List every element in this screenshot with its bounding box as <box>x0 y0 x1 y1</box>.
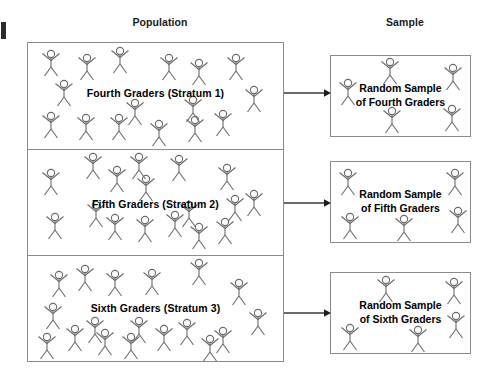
sample-label-line-2: of Fourth Graders <box>331 96 470 110</box>
stick-figure <box>75 113 97 141</box>
stratum-row-fifth-graders: Fifth Graders (Stratum 2) <box>28 150 283 256</box>
population-column-header: Population <box>105 16 215 28</box>
diagram-canvas: Population Sample Fourth Graders (Stratu… <box>0 0 495 382</box>
sample-label-sixth-graders: Random Sample of Sixth Graders <box>331 299 470 326</box>
sample-label-line-1: Random Sample <box>331 299 470 313</box>
stick-figure-icon <box>134 215 156 243</box>
stick-figure <box>109 46 131 74</box>
stratum-row-fourth-graders: Fourth Graders (Stratum 1) <box>28 43 283 150</box>
stick-figure-icon <box>188 222 210 250</box>
stick-figure-icon <box>104 213 126 241</box>
stick-figure-icon <box>214 217 236 245</box>
stick-figure <box>176 318 198 346</box>
stick-figure-icon <box>168 154 190 182</box>
stick-figure <box>36 332 58 360</box>
stick-figure-icon <box>153 324 175 352</box>
population-box: Fourth Graders (Stratum 1) Fifth Graders… <box>27 42 284 362</box>
stick-figure-icon <box>339 323 361 351</box>
stick-figure-icon <box>164 210 186 238</box>
stick-figure-icon <box>158 53 180 81</box>
stick-figure-icon <box>40 111 62 139</box>
stick-figure <box>214 217 236 245</box>
stick-figure-icon <box>199 334 221 362</box>
sample-label-line-2: of Sixth Graders <box>331 313 470 327</box>
stick-figure-icon <box>84 316 106 344</box>
stick-figure-icon <box>407 325 429 353</box>
stick-figure <box>64 324 86 352</box>
stick-figure <box>339 323 361 351</box>
stick-figure-icon <box>74 264 96 292</box>
stick-figure <box>164 210 186 238</box>
stick-figure-icon <box>120 332 142 360</box>
stick-figure <box>48 270 70 298</box>
stick-figure <box>76 53 98 81</box>
stick-figure <box>407 325 429 353</box>
stick-figure-icon <box>184 115 206 143</box>
stratum-label-fourth-graders: Fourth Graders (Stratum 1) <box>28 87 283 99</box>
stick-figure <box>40 168 62 196</box>
stick-figure-icon <box>141 268 163 296</box>
sample-label-line-1: Random Sample <box>331 82 470 96</box>
stick-figure-icon <box>225 53 247 81</box>
stick-figure-icon <box>64 324 86 352</box>
stick-figure <box>44 212 66 240</box>
stick-figure <box>104 213 126 241</box>
stick-figure-icon <box>106 165 128 193</box>
stick-figure <box>188 58 210 86</box>
stick-figure <box>104 269 126 297</box>
stick-figure-icon <box>212 109 234 137</box>
arrow-icon-stratum-1-to-sample-1 <box>284 88 331 98</box>
stick-figure <box>84 316 106 344</box>
stick-figure-icon <box>188 258 210 286</box>
stick-figure-icon <box>104 269 126 297</box>
stick-figure-icon <box>36 332 58 360</box>
page-edge-artifact <box>1 22 6 39</box>
sample-label-fifth-graders: Random Sample of Fifth Graders <box>331 188 470 215</box>
stick-figure <box>199 334 221 362</box>
stick-figure <box>212 109 234 137</box>
stick-figure <box>40 49 62 77</box>
stick-figure <box>120 332 142 360</box>
stick-figure <box>153 324 175 352</box>
stick-figure <box>216 163 238 191</box>
sample-label-fourth-graders: Random Sample of Fourth Graders <box>331 82 470 109</box>
stick-figure <box>339 212 361 240</box>
stick-figure <box>74 264 96 292</box>
stick-figure-icon <box>40 49 62 77</box>
stick-figure-icon <box>393 214 415 242</box>
stick-figure <box>82 152 104 180</box>
stick-figure <box>379 57 401 85</box>
stick-figure-icon <box>339 212 361 240</box>
stratum-label-fifth-graders: Fifth Graders (Stratum 2) <box>28 198 283 210</box>
stick-figure-icon <box>188 58 210 86</box>
stick-figure-icon <box>76 53 98 81</box>
stick-figure <box>184 115 206 143</box>
sample-box-fifth-graders: Random Sample of Fifth Graders <box>330 161 471 243</box>
arrow-icon-stratum-3-to-sample-3 <box>284 308 331 318</box>
stick-figure <box>106 165 128 193</box>
stick-figure <box>158 53 180 81</box>
stick-figure <box>393 214 415 242</box>
stick-figure <box>108 113 130 141</box>
stick-figure-icon <box>44 212 66 240</box>
stick-figure-icon <box>108 113 130 141</box>
stick-figure <box>141 268 163 296</box>
sample-label-line-2: of Fifth Graders <box>331 202 470 216</box>
sample-label-line-1: Random Sample <box>331 188 470 202</box>
stick-figure-icon <box>216 163 238 191</box>
sample-box-sixth-graders: Random Sample of Sixth Graders <box>330 272 471 354</box>
stick-figure <box>168 154 190 182</box>
stick-figure-icon <box>109 46 131 74</box>
stick-figure-icon <box>379 57 401 85</box>
stick-figure-icon <box>176 318 198 346</box>
stick-figure <box>225 53 247 81</box>
sample-column-header: Sample <box>350 16 460 28</box>
sample-box-fourth-graders: Random Sample of Fourth Graders <box>330 55 471 137</box>
stick-figure <box>188 222 210 250</box>
stick-figure-icon <box>75 113 97 141</box>
stick-figure-icon <box>148 119 170 147</box>
stick-figure <box>381 106 403 134</box>
stick-figure <box>40 111 62 139</box>
stick-figure <box>134 215 156 243</box>
arrow-icon-stratum-2-to-sample-2 <box>284 198 331 208</box>
